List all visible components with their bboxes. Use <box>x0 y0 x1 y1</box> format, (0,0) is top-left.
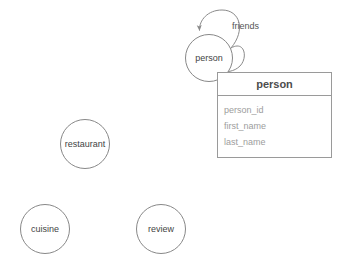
table-person-fields: person_id first_name last_name <box>218 96 331 150</box>
node-review-label: review <box>148 225 174 234</box>
diagram-canvas: person restaurant cuisine review friends… <box>0 0 350 270</box>
node-restaurant[interactable]: restaurant <box>60 119 110 169</box>
table-person-title: person <box>256 79 293 90</box>
node-review[interactable]: review <box>136 204 186 254</box>
node-restaurant-label: restaurant <box>65 140 106 149</box>
table-field-row[interactable]: last_name <box>224 134 331 150</box>
table-person-header: person <box>218 73 331 96</box>
node-cuisine[interactable]: cuisine <box>20 204 70 254</box>
table-person[interactable]: person person_id first_name last_name <box>217 72 332 158</box>
table-field-row[interactable]: first_name <box>224 118 331 134</box>
node-person-label: person <box>195 54 223 63</box>
node-cuisine-label: cuisine <box>31 225 59 234</box>
table-field-row[interactable]: person_id <box>224 102 331 118</box>
edge-label-friends: friends <box>232 22 259 31</box>
